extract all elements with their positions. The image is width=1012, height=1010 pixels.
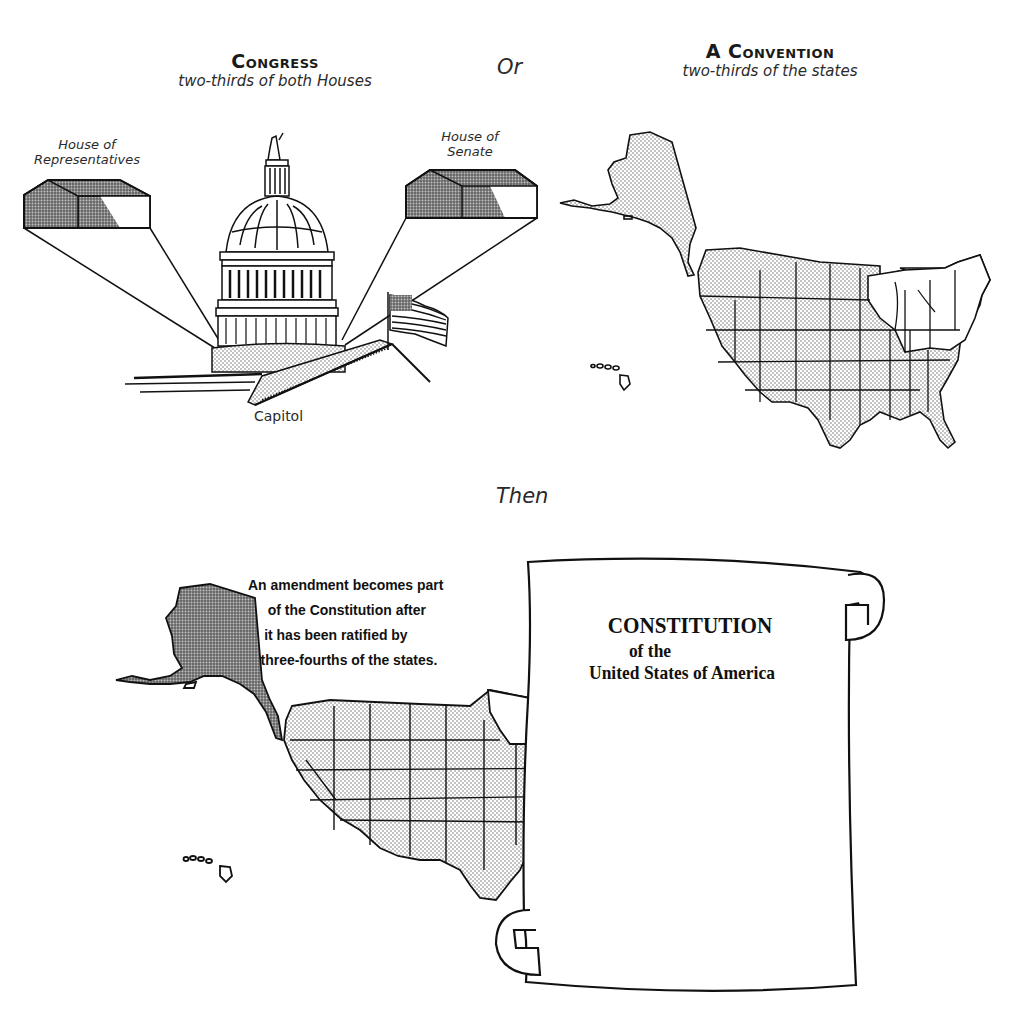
house-of-representatives-label: House of Representatives [22, 137, 152, 167]
convention-heading: A Convention [640, 40, 900, 62]
amendment-explanation: An amendment becomes part of the Constit… [248, 572, 518, 672]
amendment-line: three-fourths of the states. [248, 647, 518, 672]
constitution-subtitle-of-the: of the [567, 640, 733, 662]
house-of-representatives-icon [24, 180, 222, 350]
constitution-subtitle-usa: United States of America [544, 662, 820, 684]
amendment-line: An amendment becomes part [248, 572, 518, 597]
congress-heading: Congress [150, 50, 400, 72]
then-connector: Then [496, 484, 548, 508]
or-connector: Or [497, 55, 522, 79]
capitol-building-icon [125, 133, 448, 405]
label-line: House of [22, 137, 152, 152]
us-map-convention-icon [560, 132, 990, 448]
label-line: Senate [420, 144, 520, 159]
convention-subheading: two-thirds of the states [640, 62, 900, 80]
label-line: Representatives [22, 152, 152, 167]
constitution-title: CONSTITUTION [570, 613, 809, 639]
label-line: House of [420, 129, 520, 144]
amendment-line: it has been ratified by [248, 622, 518, 647]
amendment-line: of the Constitution after [248, 597, 518, 622]
capitol-label: Capitol [254, 408, 303, 424]
house-of-senate-label: House of Senate [420, 129, 520, 159]
congress-subheading: two-thirds of both Houses [140, 72, 410, 90]
